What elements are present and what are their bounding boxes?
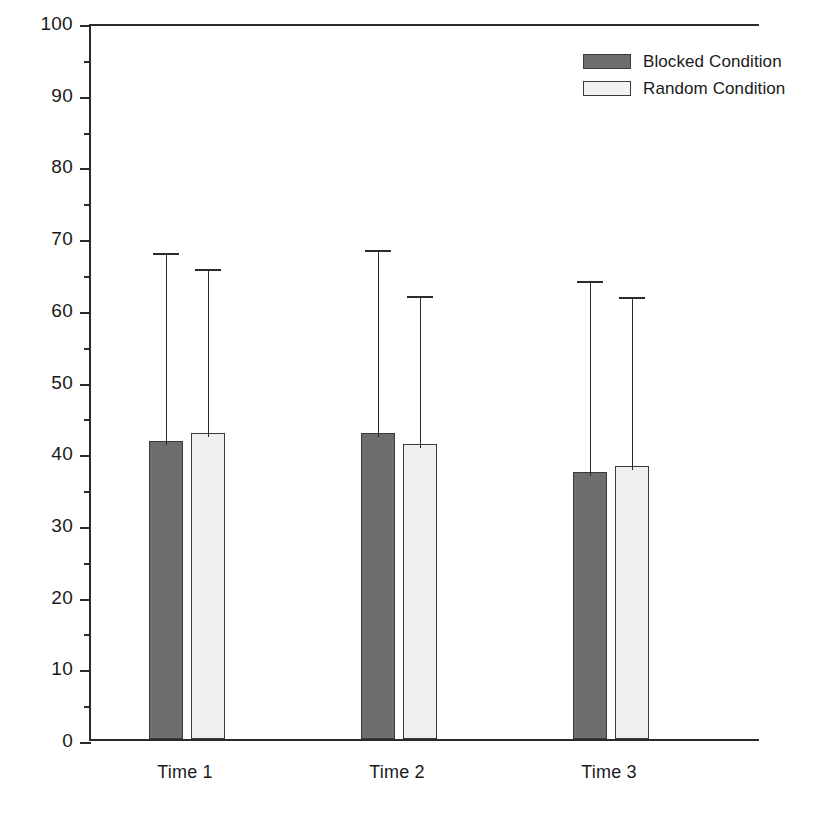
- error-bar-cap: [153, 253, 179, 255]
- legend-swatch-blocked-icon: [583, 54, 631, 69]
- y-axis-tick-minor: [84, 276, 91, 278]
- y-axis-tick-major: [80, 742, 91, 744]
- legend-item-blocked: Blocked Condition: [583, 48, 759, 75]
- bar-time-3-random-condition: [615, 466, 649, 739]
- bar-time-2-blocked-condition: [361, 433, 395, 739]
- bar-time-3-blocked-condition: [573, 472, 607, 739]
- y-axis-tick-label: 10: [13, 659, 73, 678]
- error-bar-cap: [365, 250, 391, 252]
- y-axis-tick-label: 80: [13, 157, 73, 176]
- plot-area: [89, 24, 759, 741]
- y-axis-tick-major: [80, 240, 91, 242]
- error-bar-line: [166, 253, 167, 445]
- bar-time-1-blocked-condition: [149, 441, 183, 739]
- bar-time-1-random-condition: [191, 433, 225, 739]
- y-axis-tick-label: 70: [13, 229, 73, 248]
- y-axis-tick-major: [80, 384, 91, 386]
- bar-chart-figure: Overall Mean Percentage of Errors Blocke…: [0, 0, 824, 820]
- y-axis-tick-major: [80, 527, 91, 529]
- legend-label-blocked: Blocked Condition: [643, 52, 782, 72]
- y-axis-tick-label: 100: [13, 14, 73, 33]
- error-bar-cap: [195, 269, 221, 271]
- y-axis-tick-minor: [84, 634, 91, 636]
- y-axis-tick-minor: [84, 204, 91, 206]
- y-axis-tick-major: [80, 312, 91, 314]
- y-axis-tick-major: [80, 599, 91, 601]
- x-axis-tick-label: Time 3: [529, 762, 689, 783]
- error-bar-line: [632, 297, 633, 470]
- error-bar-line: [208, 269, 209, 437]
- error-bar-line: [378, 250, 379, 437]
- error-bar-cap: [407, 296, 433, 298]
- bar-time-2-random-condition: [403, 444, 437, 739]
- legend-swatch-random-icon: [583, 81, 631, 96]
- y-axis-tick-label: 90: [13, 86, 73, 105]
- legend-item-random: Random Condition: [583, 75, 759, 102]
- y-axis-tick-minor: [84, 563, 91, 565]
- legend-label-random: Random Condition: [643, 79, 785, 99]
- y-axis-tick-label: 20: [13, 588, 73, 607]
- y-axis-tick-minor: [84, 61, 91, 63]
- y-axis-tick-major: [80, 670, 91, 672]
- y-axis-tick-major: [80, 168, 91, 170]
- error-bar-cap: [577, 281, 603, 283]
- y-axis-tick-label: 60: [13, 301, 73, 320]
- y-axis-tick-major: [80, 97, 91, 99]
- y-axis-tick-minor: [84, 419, 91, 421]
- y-axis-tick-minor: [84, 706, 91, 708]
- y-axis-tick-label: 50: [13, 373, 73, 392]
- y-axis-tick-minor: [84, 348, 91, 350]
- y-axis-tick-label: 40: [13, 444, 73, 463]
- y-axis-tick-major: [80, 455, 91, 457]
- y-axis-tick-major: [80, 25, 91, 27]
- error-bar-line: [420, 296, 421, 448]
- x-axis-tick-label: Time 2: [317, 762, 477, 783]
- plot-inner: [91, 26, 759, 739]
- error-bar-line: [590, 281, 591, 475]
- y-axis-tick-minor: [84, 133, 91, 135]
- chart-legend: Blocked Condition Random Condition: [583, 48, 759, 102]
- y-axis-tick-label: 0: [13, 731, 73, 750]
- y-axis-tick-label: 30: [13, 516, 73, 535]
- error-bar-cap: [619, 297, 645, 299]
- x-axis-tick-label: Time 1: [105, 762, 265, 783]
- y-axis-tick-minor: [84, 491, 91, 493]
